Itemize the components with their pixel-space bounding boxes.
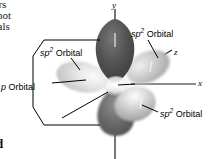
- label-sp2-top-suffix: Orbital: [144, 29, 173, 39]
- label-sp2-orbital-left: sp2 Orbital: [40, 47, 82, 58]
- label-sp2-left-prefix: sp: [40, 48, 50, 58]
- figure-canvas: hers s not bitals d: [0, 0, 211, 159]
- orbital-illustration: [0, 0, 211, 159]
- label-sp2-orbital-top: sp2 Orbital: [131, 28, 173, 39]
- label-p-suffix: Orbital: [6, 82, 35, 92]
- label-sp2-bottom-prefix: sp: [160, 109, 170, 119]
- label-sp2-left-suffix: Orbital: [53, 48, 82, 58]
- axis-label-z: z: [174, 48, 178, 57]
- axis-label-y: y: [112, 1, 116, 10]
- label-sp2-orbital-bottom: sp2 Orbital: [160, 108, 202, 119]
- label-p-orbital: p Orbital: [1, 83, 35, 92]
- label-sp2-top-prefix: sp: [131, 29, 141, 39]
- axis-label-x: x: [198, 79, 202, 88]
- label-sp2-bottom-suffix: Orbital: [173, 109, 202, 119]
